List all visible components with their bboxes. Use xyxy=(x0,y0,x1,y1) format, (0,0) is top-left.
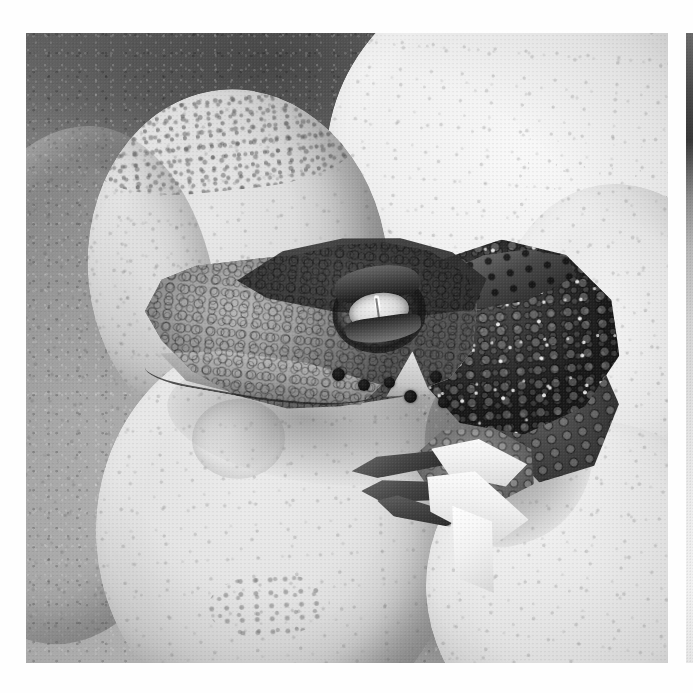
sliver-grain xyxy=(686,33,693,663)
crocodile-hatchling xyxy=(26,33,668,663)
jaw-sensory-spot xyxy=(404,390,417,403)
hatchling-head xyxy=(135,214,484,442)
jaw-sensory-spot xyxy=(430,371,442,383)
page-canvas xyxy=(0,0,693,693)
crocodile-hatchling-photo xyxy=(26,33,668,663)
jaw-sensory-spot xyxy=(384,377,395,388)
adjacent-image-edge xyxy=(686,33,693,663)
hatchling-eye xyxy=(339,279,420,343)
jaw-sensory-spot xyxy=(358,379,370,391)
jaw-sensory-spot xyxy=(438,397,449,408)
jaw-sensory-spot xyxy=(332,368,345,381)
